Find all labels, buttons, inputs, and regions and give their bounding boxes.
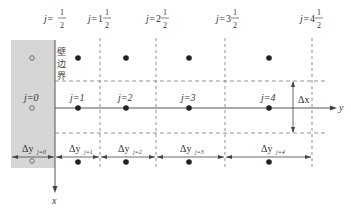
wall-boundary-label-char-2: 边 xyxy=(57,59,66,69)
half-index-label-3: j= 3 1 2 xyxy=(214,8,239,30)
node-top-4 xyxy=(266,55,272,61)
svg-text:2: 2 xyxy=(317,21,321,30)
svg-text:Δy: Δy xyxy=(69,143,80,154)
svg-text:j=: j= xyxy=(42,13,54,24)
node-label-2: j=2 xyxy=(116,92,133,103)
node-bottom-3 xyxy=(186,159,192,165)
node-top-1 xyxy=(75,55,81,61)
node-bottom-2 xyxy=(123,159,129,165)
svg-text:2: 2 xyxy=(233,21,237,30)
half-index-label-1: j= 1 1 2 xyxy=(86,8,111,30)
node-bottom-1 xyxy=(75,159,81,165)
svg-text:2: 2 xyxy=(60,21,64,30)
half-index-label-0: j= 1 2 xyxy=(42,8,66,30)
wall-boundary-label-char-1: 壁 xyxy=(57,46,66,57)
wall-index-label: j=0 xyxy=(22,92,39,103)
dx-label: Δx xyxy=(298,94,309,105)
node-mid-1 xyxy=(75,105,81,111)
node-mid-4 xyxy=(266,105,272,111)
svg-text:j=: j= xyxy=(298,13,310,24)
svg-text:4: 4 xyxy=(310,13,315,24)
dx-arrow-down-icon xyxy=(291,127,295,133)
svg-text:1: 1 xyxy=(98,13,103,24)
x-axis-label: x xyxy=(51,195,57,206)
svg-text:1: 1 xyxy=(163,8,167,17)
half-index-label-2: j= 2 1 2 xyxy=(144,8,169,30)
svg-text:j=1: j=1 xyxy=(83,149,93,155)
dx-arrow-up-icon xyxy=(291,81,295,87)
dy-dimension-4: Δy j=4 xyxy=(226,143,311,159)
x-axis-arrow-icon xyxy=(53,186,58,193)
svg-text:j=0: j=0 xyxy=(36,149,46,155)
svg-text:Δy: Δy xyxy=(261,143,272,154)
node-label-4: j=4 xyxy=(259,92,276,103)
svg-text:Δy: Δy xyxy=(118,143,129,154)
dy-dimension-2: Δy j=2 xyxy=(101,143,155,159)
svg-text:1: 1 xyxy=(317,8,321,17)
node-label-3: j=3 xyxy=(179,92,196,103)
svg-text:Δy: Δy xyxy=(22,143,33,154)
svg-text:j=4: j=4 xyxy=(275,149,285,155)
node-mid-2 xyxy=(123,105,129,111)
dy-dimension-3: Δy j=3 xyxy=(157,143,224,159)
node-top-3 xyxy=(186,55,192,61)
y-axis-arrow-icon xyxy=(330,106,337,111)
svg-text:2: 2 xyxy=(105,21,109,30)
finite-difference-grid-diagram: x y j= 1 2 j= 1 1 2 j= 2 1 xyxy=(0,0,351,209)
svg-text:1: 1 xyxy=(105,8,109,17)
svg-text:j=: j= xyxy=(214,13,226,24)
svg-text:2: 2 xyxy=(156,13,161,24)
svg-text:1: 1 xyxy=(60,8,64,17)
svg-text:1: 1 xyxy=(233,8,237,17)
svg-text:j=: j= xyxy=(144,13,156,24)
svg-text:j=: j= xyxy=(86,13,98,24)
dy-dimension-1: Δy j=1 xyxy=(56,143,99,159)
svg-text:j=3: j=3 xyxy=(194,149,204,155)
svg-text:2: 2 xyxy=(163,21,167,30)
y-axis-label: y xyxy=(338,102,344,113)
wall-boundary-label-char-3: 界 xyxy=(57,71,66,81)
node-top-2 xyxy=(123,55,129,61)
svg-text:Δy: Δy xyxy=(180,143,191,154)
svg-text:j=2: j=2 xyxy=(132,149,142,155)
node-mid-3 xyxy=(186,105,192,111)
node-label-1: j=1 xyxy=(68,92,85,103)
svg-text:3: 3 xyxy=(226,13,231,24)
half-index-label-4: j= 4 1 2 xyxy=(298,8,323,30)
node-bottom-4 xyxy=(266,159,272,165)
